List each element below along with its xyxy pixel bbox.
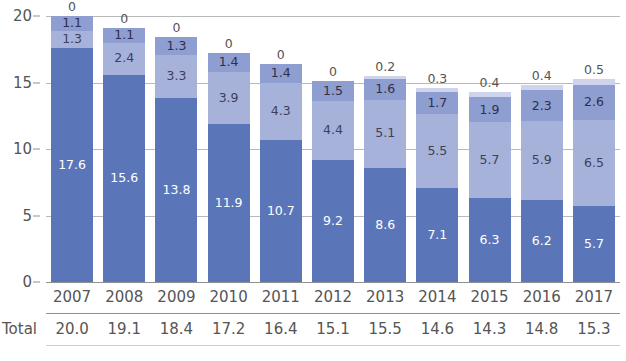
- total-value-2013: 15.5: [364, 320, 406, 338]
- bar-segment-value: 2.4: [114, 52, 134, 65]
- bar-top-label-2007: 0: [51, 0, 93, 14]
- bar-top-label-2010: 0: [208, 36, 250, 51]
- bar-segment-value: 6.2: [532, 235, 552, 248]
- x-tick-label-2017: 2017: [573, 288, 615, 306]
- bar-segment-value: 5.7: [480, 154, 500, 167]
- bar-segment-2017-series-3-upper[interactable]: 2.6: [573, 85, 615, 120]
- bar-segment-2011-series-3-upper[interactable]: 1.4: [260, 64, 302, 83]
- bar-segment-2008-series-3-upper[interactable]: 1.1: [103, 28, 145, 43]
- bar-top-label-2014: 0.3: [416, 71, 458, 86]
- bar-segment-2017-series-1-base[interactable]: 5.7: [573, 206, 615, 282]
- bar-top-label-2013: 0.2: [364, 59, 406, 74]
- bar-2008[interactable]: 1.12.415.6: [103, 28, 145, 282]
- y-tick-label-5: 5: [22, 207, 32, 225]
- plot-area: 1.11.317.601.12.415.601.33.313.801.43.91…: [46, 16, 620, 282]
- bar-segment-2015-series-3-upper[interactable]: 1.9: [469, 97, 511, 122]
- bar-segment-value: 5.5: [427, 145, 447, 158]
- bar-segment-2013-series-2-middle[interactable]: 5.1: [364, 100, 406, 168]
- bar-segment-2007-series-1-base[interactable]: 17.6: [51, 48, 93, 282]
- bar-segment-value: 1.3: [62, 33, 82, 46]
- bar-segment-2014-series-2-middle[interactable]: 5.5: [416, 114, 458, 187]
- bar-segment-2017-series-2-middle[interactable]: 6.5: [573, 120, 615, 206]
- bar-top-label-2009: 0: [155, 20, 197, 35]
- bar-segment-value: 6.3: [480, 234, 500, 247]
- bar-2009[interactable]: 1.33.313.8: [155, 37, 197, 282]
- bar-segment-value: 17.6: [58, 159, 86, 172]
- bar-segment-2009-series-1-base[interactable]: 13.8: [155, 98, 197, 282]
- bar-segment-2016-series-2-middle[interactable]: 5.9: [521, 121, 563, 199]
- x-tick-label-2014: 2014: [416, 288, 458, 306]
- bar-segment-value: 15.6: [110, 172, 138, 185]
- total-value-2007: 20.0: [51, 320, 93, 338]
- x-tick-label-2011: 2011: [260, 288, 302, 306]
- total-value-2016: 14.8: [521, 320, 563, 338]
- y-tick-label-0: 0: [22, 273, 32, 291]
- x-tick-label-2009: 2009: [155, 288, 197, 306]
- bar-2014[interactable]: 0.31.75.57.1: [416, 88, 458, 282]
- bar-segment-2010-series-2-middle[interactable]: 3.9: [208, 72, 250, 124]
- bar-segment-value: 3.9: [219, 92, 239, 105]
- total-value-2012: 15.1: [312, 320, 354, 338]
- bar-2010[interactable]: 1.43.911.9: [208, 53, 250, 282]
- bar-segment-value: 10.7: [267, 205, 295, 218]
- x-tick-label-2007: 2007: [51, 288, 93, 306]
- bar-2013[interactable]: 0.21.65.18.6: [364, 76, 406, 282]
- total-value-2011: 16.4: [260, 320, 302, 338]
- bar-2007[interactable]: 1.11.317.6: [51, 16, 93, 282]
- bar-segment-value: 1.4: [219, 56, 239, 69]
- bar-top-label-2011: 0: [260, 47, 302, 62]
- bar-segment-value: 8.6: [375, 219, 395, 232]
- bar-segment-2011-series-1-base[interactable]: 10.7: [260, 140, 302, 282]
- bar-segment-2010-series-1-base[interactable]: 11.9: [208, 124, 250, 282]
- bar-2011[interactable]: 1.44.310.7: [260, 64, 302, 282]
- x-tick-label-2013: 2013: [364, 288, 406, 306]
- bar-segment-2015-series-2-middle[interactable]: 5.7: [469, 122, 511, 198]
- bar-segment-2015-series-1-base[interactable]: 6.3: [469, 198, 511, 282]
- bar-segment-value: 2.3: [532, 100, 552, 113]
- bar-segment-2009-series-3-upper[interactable]: 1.3: [155, 37, 197, 54]
- bar-segment-2009-series-2-middle[interactable]: 3.3: [155, 55, 197, 99]
- bar-segment-2010-series-3-upper[interactable]: 1.4: [208, 53, 250, 72]
- bar-2015[interactable]: 0.41.95.76.3: [469, 92, 511, 282]
- bar-segment-value: 13.8: [163, 184, 191, 197]
- bar-segment-2016-series-3-upper[interactable]: 2.3: [521, 90, 563, 121]
- y-tick-label-10: 10: [13, 140, 32, 158]
- bar-2016[interactable]: 0.42.35.96.2: [521, 85, 563, 282]
- bar-segment-2014-series-3-upper[interactable]: 1.7: [416, 92, 458, 115]
- bar-segment-2012-series-1-base[interactable]: 9.2: [312, 160, 354, 282]
- bar-segment-value: 6.5: [584, 157, 604, 170]
- y-tick-label-15: 15: [13, 74, 32, 92]
- total-value-2008: 19.1: [103, 320, 145, 338]
- bar-segment-2012-series-3-upper[interactable]: 1.5: [312, 81, 354, 101]
- bar-segment-2012-series-2-middle[interactable]: 4.4: [312, 101, 354, 160]
- bar-segment-2017-series-4-top[interactable]: 0.5: [573, 79, 615, 86]
- bar-segment-2011-series-2-middle[interactable]: 4.3: [260, 83, 302, 140]
- bar-segment-2013-series-3-upper[interactable]: 1.6: [364, 79, 406, 100]
- bar-segment-2016-series-1-base[interactable]: 6.2: [521, 200, 563, 282]
- y-tick-label-20: 20: [13, 7, 32, 25]
- bar-segment-2008-series-1-base[interactable]: 15.6: [103, 75, 145, 282]
- stacked-bar-chart: (cropped title) 05101520 1.11.317.601.12…: [0, 0, 626, 361]
- bar-2017[interactable]: 0.52.66.55.7: [573, 79, 615, 282]
- total-value-2017: 15.3: [573, 320, 615, 338]
- bar-segment-2007-series-3-upper[interactable]: 1.1: [51, 16, 93, 31]
- bar-segment-value: 1.6: [375, 83, 395, 96]
- bar-top-label-2017: 0.5: [573, 62, 615, 77]
- y-tick-mark-20: [33, 16, 40, 17]
- bar-segment-2007-series-2-middle[interactable]: 1.3: [51, 31, 93, 48]
- bar-segment-2014-series-1-base[interactable]: 7.1: [416, 188, 458, 282]
- x-tick-label-2008: 2008: [103, 288, 145, 306]
- bar-segment-2008-series-2-middle[interactable]: 2.4: [103, 43, 145, 75]
- bar-top-label-2015: 0.4: [469, 75, 511, 90]
- x-axis-category-labels: 2007200820092010201120122013201420152016…: [46, 286, 620, 312]
- total-value-2009: 18.4: [155, 320, 197, 338]
- bar-segment-value: 3.3: [167, 70, 187, 83]
- bar-top-label-2008: 0: [103, 11, 145, 26]
- y-tick-mark-5: [33, 215, 40, 216]
- bar-segment-value: 1.5: [323, 85, 343, 98]
- bar-segment-value: 11.9: [215, 197, 243, 210]
- bar-segment-value: 1.3: [167, 40, 187, 53]
- bar-segment-value: 2.6: [584, 96, 604, 109]
- bar-segment-2013-series-1-base[interactable]: 8.6: [364, 168, 406, 282]
- bar-2012[interactable]: 1.54.49.2: [312, 81, 354, 282]
